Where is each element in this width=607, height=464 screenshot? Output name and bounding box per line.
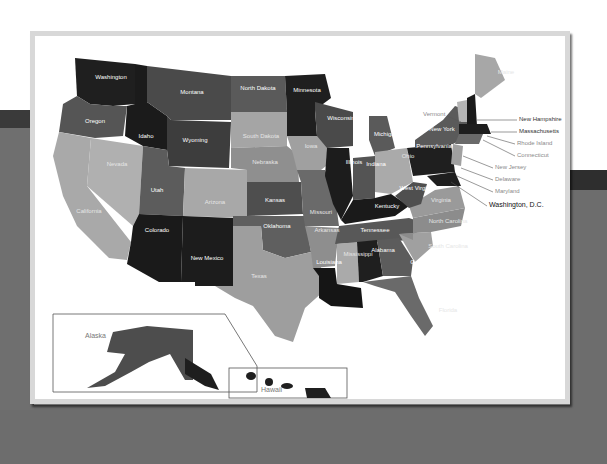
alaska-panhandle <box>185 358 219 390</box>
state-north-dakota <box>231 76 287 112</box>
label-mississippi: Mississippi <box>343 251 372 257</box>
label-north-carolina: North Carolina <box>429 218 468 224</box>
background-object-right-edge <box>570 170 607 190</box>
hawaii-inset-frame <box>229 368 347 398</box>
map-poster: Washington Oregon California Nevada Idah… <box>30 31 570 404</box>
background-object-right <box>570 175 607 415</box>
label-utah: Utah <box>151 187 164 193</box>
label-alaska: Alaska <box>85 332 106 339</box>
label-south-dakota: South Dakota <box>243 133 279 139</box>
label-washington: Washington <box>95 74 126 80</box>
label-oregon: Oregon <box>85 118 105 124</box>
label-pennsylvania: Pennsylvania <box>416 143 452 149</box>
label-tennessee: Tennessee <box>360 227 389 233</box>
label-arizona: Colorado <box>145 227 169 233</box>
background-object-left <box>0 110 34 410</box>
map-canvas: Washington Oregon California Nevada Idah… <box>35 36 565 399</box>
label-north-dakota: North Dakota <box>240 85 275 91</box>
label-arkansas: Arkansas <box>314 227 339 233</box>
state-florida <box>363 276 433 336</box>
label-illinois: Illinois <box>346 159 363 165</box>
callout-rhode-island: Rhode Island <box>517 140 552 146</box>
state-maine <box>475 54 505 98</box>
callout-maryland: Maryland <box>495 188 520 194</box>
label-nevada: Nevada <box>107 161 128 167</box>
label-texas: Texas <box>251 273 267 279</box>
table-surface <box>0 405 607 464</box>
label-ohio: Ohio <box>402 153 415 159</box>
state-arizona <box>127 214 183 282</box>
label-florida: Florida <box>439 307 457 313</box>
label-california: California <box>76 208 101 214</box>
callout-delaware: Delaware <box>495 176 520 182</box>
label-idaho: Idaho <box>138 133 153 139</box>
label-west-virginia: West Virginia <box>399 185 434 191</box>
label-montana: Montana <box>180 89 203 95</box>
label-kansas: Kansas <box>265 197 285 203</box>
label-indiana: Indiana <box>366 161 386 167</box>
state-colorado <box>183 168 247 218</box>
label-virginia: Virginia <box>431 197 451 203</box>
state-new-hampshire <box>467 94 477 126</box>
state-massachusetts <box>459 124 491 134</box>
label-colorado: Arizona <box>205 199 225 205</box>
label-nebraska: Nebraska <box>252 159 278 165</box>
label-new-mexico: New Mexico <box>191 255 224 261</box>
callout-connecticut: Connecticut <box>517 152 549 158</box>
label-minnesota: Minnesota <box>293 87 321 93</box>
label-south-carolina: South Carolina <box>428 243 468 249</box>
callout-washington-dc: Washington, D.C. <box>489 201 544 208</box>
label-iowa: Iowa <box>305 143 318 149</box>
label-wyoming: Wyoming <box>183 137 208 143</box>
callout-new-jersey: New Jersey <box>495 164 526 170</box>
label-hawaii: Hawaii <box>261 386 282 393</box>
state-washington <box>75 58 135 106</box>
label-missouri: Missouri <box>310 209 332 215</box>
callout-massachusetts: Massachusetts <box>519 128 559 134</box>
state-connecticut-ri <box>455 134 483 144</box>
label-michigan: Michigan <box>374 131 398 137</box>
label-new-york: New York <box>429 126 454 132</box>
label-oklahoma: Oklahoma <box>263 223 290 229</box>
label-maine: Maine <box>498 69 514 75</box>
label-wisconsin: Wisconsin <box>327 115 354 121</box>
state-new-jersey <box>451 144 463 166</box>
background-object-left-edge <box>0 110 34 128</box>
label-kentucky: Kentucky <box>375 203 400 209</box>
label-georgia: Georgia <box>410 259 431 265</box>
state-south-dakota <box>231 112 287 148</box>
label-louisiana: Louisiana <box>316 259 342 265</box>
state-new-mexico <box>181 216 233 286</box>
callout-new-hampshire: New Hampshire <box>519 116 562 122</box>
label-alabama: Alabama <box>371 247 395 253</box>
callout-vermont: Vermont <box>423 111 445 117</box>
